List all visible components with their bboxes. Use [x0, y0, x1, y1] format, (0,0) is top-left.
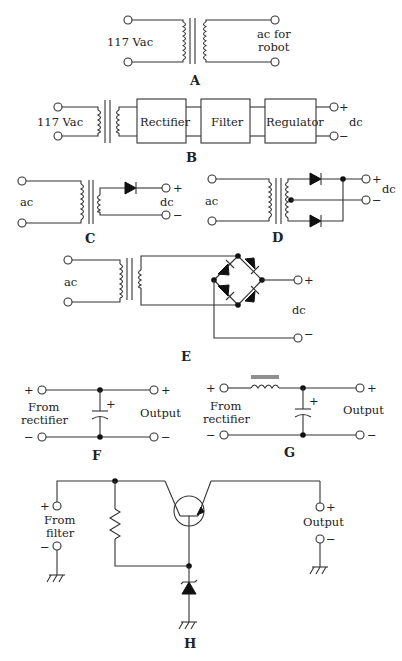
svg-text:−: −	[326, 532, 336, 546]
output-label: Output	[303, 515, 344, 529]
terminal	[356, 431, 364, 439]
input-label: From	[28, 400, 59, 414]
terminal	[64, 298, 72, 306]
power-supply-diagram: 117 Vac ac for robot A Rectifier Filter …	[0, 0, 402, 661]
panel-a-transformer: 117 Vac ac for robot A	[107, 16, 291, 88]
svg-text:Regulator: Regulator	[266, 115, 324, 129]
input-label: ac	[205, 194, 218, 208]
terminal	[18, 219, 26, 227]
terminal	[150, 433, 158, 441]
output-label: ac for	[257, 27, 291, 41]
svg-text:+: +	[24, 383, 34, 397]
terminal	[64, 256, 72, 264]
panel-d-fullwave-centertap: + − dc ac D	[205, 172, 396, 245]
terminal	[54, 103, 62, 111]
panel-e-bridge-rectifier: + − dc ac E	[64, 253, 314, 364]
svg-text:filter: filter	[46, 526, 75, 540]
terminal	[54, 132, 62, 140]
input-label: 117 Vac	[37, 115, 83, 129]
resistor	[110, 509, 120, 539]
terminal	[208, 217, 216, 225]
diode	[310, 215, 321, 227]
output-label: dc	[349, 115, 363, 129]
panel-caption: F	[92, 448, 102, 463]
input-label: ac	[64, 275, 77, 289]
panel-c-halfwave-rectifier: + − dc ac C	[18, 177, 183, 246]
inductor	[251, 385, 279, 388]
terminal	[208, 175, 216, 183]
terminal	[316, 535, 324, 543]
svg-text:+: +	[326, 500, 336, 514]
svg-text:−: −	[161, 430, 171, 444]
terminal	[124, 58, 132, 66]
output-label: dc	[382, 182, 396, 196]
svg-text:+: +	[173, 181, 183, 195]
svg-text:Rectifier: Rectifier	[140, 115, 191, 129]
panel-g-lc-filter: + + + − − From rectifier Output G	[203, 376, 384, 460]
svg-text:+: +	[372, 172, 382, 186]
svg-text:+: +	[309, 394, 319, 408]
svg-text:−: −	[40, 540, 50, 554]
terminal	[162, 184, 170, 192]
panel-caption: G	[284, 445, 295, 460]
svg-text:robot: robot	[258, 40, 290, 54]
terminal	[220, 431, 228, 439]
terminal	[18, 177, 26, 185]
svg-text:−: −	[304, 327, 314, 341]
input-label: From	[210, 399, 241, 413]
svg-text:+: +	[339, 100, 349, 114]
output-label: dc	[160, 195, 174, 209]
terminal	[330, 103, 338, 111]
terminal	[53, 542, 61, 550]
svg-text:+: +	[367, 381, 377, 395]
diode	[310, 173, 321, 185]
terminal	[220, 384, 228, 392]
input-label: ac	[20, 195, 33, 209]
svg-text:+: +	[161, 383, 171, 397]
svg-text:−: −	[206, 428, 216, 442]
terminal	[38, 386, 46, 394]
panel-b-block-diagram: Rectifier Filter Regulator + − dc 117 Va…	[37, 99, 363, 165]
svg-text:−: −	[367, 428, 377, 442]
terminal	[330, 132, 338, 140]
terminal	[271, 58, 279, 66]
terminal	[362, 196, 370, 204]
ground-icon	[47, 575, 65, 582]
terminal	[162, 211, 170, 219]
svg-text:+: +	[40, 499, 50, 513]
svg-text:rectifier: rectifier	[21, 413, 69, 427]
panel-caption: B	[186, 150, 197, 165]
svg-text:−: −	[24, 430, 34, 444]
svg-text:+: +	[304, 273, 314, 287]
svg-text:rectifier: rectifier	[203, 412, 251, 426]
zener-diode	[182, 582, 196, 594]
svg-text:+: +	[106, 397, 116, 411]
ground-icon	[179, 622, 197, 629]
terminal	[294, 276, 302, 284]
panel-caption: E	[181, 349, 191, 364]
svg-text:−: −	[339, 129, 349, 143]
output-label: dc	[292, 303, 306, 317]
diode	[218, 264, 229, 275]
panel-caption: D	[272, 230, 283, 245]
svg-text:−: −	[173, 208, 183, 222]
diode	[125, 182, 136, 194]
terminal	[124, 16, 132, 24]
terminal	[294, 334, 302, 342]
svg-text:Filter: Filter	[211, 115, 244, 129]
input-label: 117 Vac	[107, 35, 153, 49]
diode	[218, 285, 229, 296]
panel-h-zener-regulator: + From filter − + Output	[40, 478, 344, 651]
terminal	[316, 503, 324, 511]
terminal	[38, 433, 46, 441]
panel-caption: H	[184, 636, 196, 651]
panel-f-capacitor-filter: + + + − − From rectifier Output F	[21, 383, 181, 463]
terminal	[271, 16, 279, 24]
input-label: From	[44, 513, 75, 527]
terminal	[53, 502, 61, 510]
output-label: Output	[140, 406, 181, 420]
svg-text:−: −	[372, 193, 382, 207]
terminal	[150, 386, 158, 394]
panel-caption: A	[189, 73, 201, 88]
svg-text:+: +	[206, 381, 216, 395]
